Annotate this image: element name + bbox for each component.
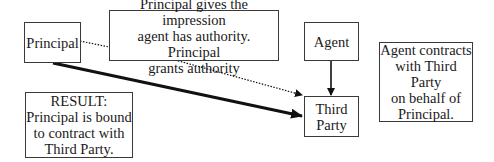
agent-box: Agent	[304, 22, 359, 61]
result-box: RESULT: Principal is bound to contract w…	[25, 92, 133, 158]
agent-contracts-label: Agent contracts with Third Party on beha…	[380, 42, 472, 122]
impression-box: Principal gives the impression agent has…	[109, 10, 279, 61]
impression-label: Principal gives the impression agent has…	[110, 0, 278, 76]
third-party-label: Third Party	[315, 101, 347, 133]
dotted-link-principal-impression	[80, 41, 109, 47]
agency-diagram: Principal Principal gives the impression…	[0, 0, 494, 162]
agent-label: Agent	[314, 34, 349, 50]
result-label: RESULT: Principal is bound to contract w…	[26, 93, 132, 157]
agent-contracts-box: Agent contracts with Third Party on beha…	[379, 42, 473, 122]
principal-label: Principal	[26, 35, 78, 51]
third-party-box: Third Party	[304, 96, 359, 137]
principal-box: Principal	[24, 22, 81, 63]
